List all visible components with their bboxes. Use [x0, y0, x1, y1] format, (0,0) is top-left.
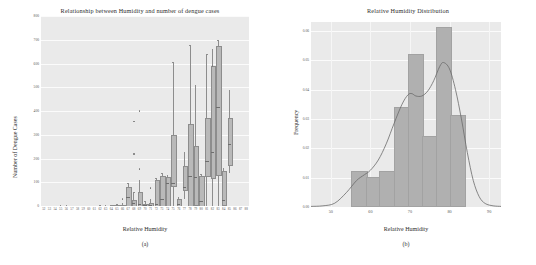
- x-tick-label: 60: [87, 207, 90, 211]
- y-tick-label: 200: [34, 157, 39, 161]
- y-tick-label: 100: [34, 180, 39, 184]
- x-tick-label: 83: [216, 207, 219, 211]
- x-tick-label: 90: [487, 209, 491, 214]
- x-tick-label: 67: [127, 207, 130, 211]
- panel-b-title: Relative Humidity Distribution: [280, 7, 536, 14]
- boxplot-whisker-cap: [155, 178, 157, 179]
- figure-root: Relationship between Humidity and number…: [0, 0, 536, 265]
- x-tick-label: 56: [65, 207, 68, 211]
- x-tick-label: 59: [82, 207, 85, 211]
- boxplot-median: [171, 183, 174, 184]
- y-tick-label: 0.06: [303, 29, 309, 33]
- y-tick-label: 500: [34, 85, 39, 89]
- x-tick-label: 55: [59, 207, 62, 211]
- y-tick-label: 0.05: [303, 58, 309, 62]
- x-tick-label: 54: [53, 207, 56, 211]
- boxplot-whisker-cap: [212, 49, 214, 50]
- x-tick-label: 75: [172, 207, 175, 211]
- boxplot-median: [149, 205, 152, 206]
- boxplot-whisker-cap: [167, 175, 169, 176]
- x-tick-label: 77: [183, 207, 186, 211]
- x-tick-label: 88: [245, 207, 248, 211]
- y-tick-label: 0.01: [303, 176, 309, 180]
- boxplot-outlier: [133, 153, 135, 155]
- x-tick-label: 85: [228, 207, 231, 211]
- boxplot-whisker-cap: [189, 45, 191, 46]
- x-tick-label: 61: [93, 207, 96, 211]
- boxplot-whisker-cap: [127, 183, 129, 184]
- x-tick-label: 58: [76, 207, 79, 211]
- y-tick-label: 0: [37, 204, 39, 208]
- boxplot-median: [205, 161, 208, 162]
- boxplot-box: [228, 118, 233, 166]
- x-tick-label: 52: [42, 207, 45, 211]
- boxplot-outlier: [139, 168, 141, 170]
- x-tick-label: 71: [149, 207, 152, 211]
- panel-a-title: Relationship between Humidity and number…: [0, 7, 280, 14]
- x-tick-label: 80: [447, 209, 451, 214]
- y-tick-label: 800: [34, 14, 39, 18]
- boxplot-median: [132, 203, 135, 204]
- x-tick-label: 57: [70, 207, 73, 211]
- panel-b-histogram: Relative Humidity Distribution 0.000.010…: [280, 0, 536, 265]
- x-tick-label: 86: [233, 207, 236, 211]
- boxplot-median: [199, 201, 202, 202]
- x-tick-label: 78: [188, 207, 191, 211]
- y-tick-label: 0.04: [303, 88, 309, 92]
- x-tick-label: 87: [239, 207, 242, 211]
- panel-b-x-axis-label: Relative Humidity: [311, 226, 501, 232]
- boxplot-median: [222, 200, 225, 201]
- x-tick-label: 63: [104, 207, 107, 211]
- panel-a-x-axis-label: Relative Humidity: [41, 226, 249, 232]
- boxplot-median: [155, 204, 158, 205]
- grid-line: [41, 16, 249, 17]
- x-tick-label: 64: [110, 207, 113, 211]
- boxplot-whisker-cap: [150, 199, 152, 200]
- x-tick-label: 65: [115, 207, 118, 211]
- x-tick-label: 69: [138, 207, 141, 211]
- boxplot-median: [160, 199, 163, 200]
- panel-a-caption: (a): [41, 241, 249, 247]
- x-tick-label: 53: [48, 207, 51, 211]
- x-tick-label: 68: [132, 207, 135, 211]
- boxplot-outlier: [212, 65, 214, 67]
- x-tick-label: 80: [200, 207, 203, 211]
- boxplot-median: [211, 152, 214, 153]
- boxplot-median: [194, 177, 197, 178]
- x-tick-label: 70: [143, 207, 146, 211]
- boxplot-median: [166, 183, 169, 184]
- x-tick-label: 82: [211, 207, 214, 211]
- y-tick-label: 0.03: [303, 117, 309, 121]
- boxplot-whisker-cap: [184, 152, 186, 153]
- boxplot-outlier: [122, 198, 124, 200]
- boxplot-median: [228, 144, 231, 145]
- boxplot-whisker-cap: [206, 54, 208, 55]
- boxplot-median: [183, 187, 186, 188]
- panel-a-plot-area: [41, 16, 249, 206]
- panel-b-plot-area: [311, 22, 501, 207]
- panel-b-x-tick-labels: 5060708090: [311, 209, 501, 217]
- boxplot-whisker-cap: [223, 168, 225, 169]
- y-tick-label: 300: [34, 133, 39, 137]
- panel-b-caption: (b): [311, 241, 501, 247]
- panel-b-y-axis-label: Frequency: [293, 110, 299, 135]
- x-tick-label: 60: [368, 209, 372, 214]
- boxplot-whisker-cap: [200, 174, 202, 175]
- kde-curve: [311, 22, 501, 207]
- panel-a-y-axis-label: Number of Dengue Cases: [12, 116, 18, 178]
- x-tick-label: 76: [177, 207, 180, 211]
- boxplot-outlier: [139, 110, 141, 112]
- x-tick-label: 74: [166, 207, 169, 211]
- x-tick-label: 70: [408, 209, 412, 214]
- boxplot-whisker-cap: [133, 192, 135, 193]
- boxplot-whisker-cap: [144, 201, 146, 202]
- y-tick-label: 400: [34, 109, 39, 113]
- boxplot-median: [143, 205, 146, 206]
- boxplot-box: [216, 46, 221, 176]
- boxplot-whisker-cap: [178, 197, 180, 198]
- boxplot-median: [126, 197, 129, 198]
- x-tick-label: 79: [194, 207, 197, 211]
- panel-a-boxplot: Relationship between Humidity and number…: [0, 0, 280, 265]
- boxplot-whisker-cap: [195, 85, 197, 86]
- boxplot-whisker-cap: [172, 62, 174, 63]
